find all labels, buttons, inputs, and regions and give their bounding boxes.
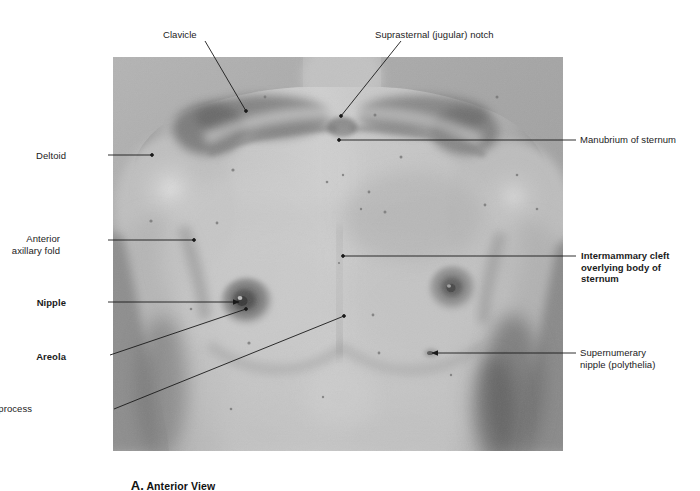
label-anterior-axillary-fold: Anterior axillary fold — [12, 233, 60, 256]
caption-letter: A. — [131, 478, 144, 491]
figure-caption: A. Anterior View — [113, 458, 215, 491]
label-nipple: Nipple — [37, 297, 66, 309]
label-areola: Areola — [36, 351, 66, 363]
label-deltoid: Deltoid — [36, 150, 66, 162]
label-supernumerary-nipple: Supernumerary nipple (polythelia) — [580, 347, 655, 370]
anatomy-photograph — [113, 57, 563, 451]
label-suprasternal-notch: Suprasternal (jugular) notch — [375, 29, 494, 41]
figure-canvas: ClavicleSuprasternal (jugular) notchDelt… — [0, 0, 700, 491]
caption-text: Anterior View — [144, 480, 215, 491]
label-clavicle: Clavicle — [163, 29, 197, 41]
label-xiphoid-process: Xiphoid process — [0, 403, 32, 415]
photograph-image — [113, 57, 563, 451]
label-manubrium-of-sternum: Manubrium of sternum — [580, 134, 676, 146]
label-intermammary-cleft: Intermammary cleft overlying body of ste… — [581, 250, 670, 285]
